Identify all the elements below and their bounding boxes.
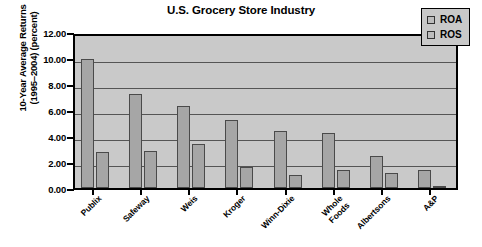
x-axis-tick-label: A&P — [421, 194, 440, 213]
gridline — [75, 62, 456, 63]
legend-swatch-icon — [427, 31, 435, 39]
bar-ros — [96, 152, 109, 188]
bar-roa — [81, 59, 94, 188]
y-axis-tick-label: 6.00 — [26, 107, 66, 117]
bar-ros — [240, 167, 253, 188]
bar-roa — [322, 133, 335, 188]
y-axis-tick-label: 2.00 — [26, 159, 66, 169]
bar-ros — [144, 151, 157, 188]
plot-inner — [75, 36, 456, 188]
chart-legend: ROA ROS — [421, 8, 470, 46]
y-axis-tick-labels: 12.0010.008.006.004.002.000.00 — [24, 34, 66, 190]
bar-roa — [274, 131, 287, 188]
bar-ros — [433, 186, 446, 188]
bar-roa — [418, 170, 431, 188]
bar-ros — [192, 144, 205, 188]
x-axis-tick-label: Safeway — [122, 194, 152, 224]
y-axis-tick-label: 4.00 — [26, 133, 66, 143]
gridline — [75, 88, 456, 89]
x-axis-tick-labels: PublixSafewayWeisKrogerWinn-DixieWhole F… — [73, 194, 458, 247]
x-axis-tick-label: Winn-Dixie — [259, 194, 296, 231]
chart-figure: U.S. Grocery Store Industry 10-Year Aver… — [0, 0, 482, 247]
bar-roa — [177, 106, 190, 188]
y-axis-tick-label: 0.00 — [26, 185, 66, 195]
y-axis-tick-label: 8.00 — [26, 81, 66, 91]
x-axis-tick-label: Kroger — [222, 194, 248, 220]
legend-label: ROS — [440, 29, 461, 40]
bar-ros — [337, 170, 350, 188]
legend-swatch-icon — [427, 16, 435, 24]
x-axis-tick-label: Albertsons — [355, 194, 392, 231]
legend-item-ros[interactable]: ROS — [427, 27, 462, 42]
x-axis-tick-label: Publix — [79, 194, 103, 218]
chart-title: U.S. Grocery Store Industry — [0, 4, 482, 16]
y-axis-tick-label: 12.00 — [26, 29, 66, 39]
bar-ros — [385, 173, 398, 188]
y-axis-tick-label: 10.00 — [26, 55, 66, 65]
bar-roa — [225, 120, 238, 188]
plot-area — [73, 34, 458, 190]
x-axis-tick-label: Whole Foods — [320, 194, 351, 225]
bar-ros — [289, 175, 302, 188]
legend-item-roa[interactable]: ROA — [427, 12, 462, 27]
x-axis-tick-label: Weis — [180, 194, 200, 214]
bar-roa — [129, 94, 142, 188]
legend-label: ROA — [440, 14, 462, 25]
bar-roa — [370, 156, 383, 189]
